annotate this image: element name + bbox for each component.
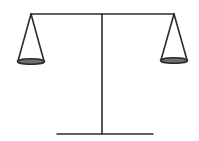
- right-pan-dish: [161, 58, 188, 64]
- left-pan-dish: [18, 59, 45, 65]
- left-pan-string-right: [31, 14, 44, 61]
- right-pan: [161, 14, 188, 63]
- left-pan: [18, 14, 45, 64]
- left-pan-string-left: [18, 14, 31, 61]
- balance-scale-diagram: [0, 0, 199, 141]
- right-pan-string-right: [174, 14, 187, 60]
- right-pan-string-left: [161, 14, 174, 60]
